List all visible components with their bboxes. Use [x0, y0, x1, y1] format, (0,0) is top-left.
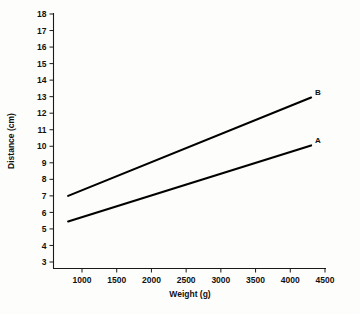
y-tick-label-7: 7 — [42, 191, 47, 201]
y-tick-label-4: 4 — [42, 241, 47, 251]
y-tick-label-16: 16 — [37, 42, 47, 52]
y-tick-label-3: 3 — [42, 257, 47, 267]
x-tick-label-3000: 3000 — [211, 275, 230, 285]
x-tick-label-1500: 1500 — [107, 275, 126, 285]
chart-series-lines — [68, 97, 311, 221]
x-axis-title: Weight (g) — [169, 289, 211, 299]
y-tick-label-9: 9 — [42, 158, 47, 168]
y-axis-ticks — [50, 14, 54, 262]
x-tick-label-4000: 4000 — [281, 275, 300, 285]
y-tick-label-6: 6 — [42, 208, 47, 218]
y-tick-label-5: 5 — [42, 224, 47, 234]
y-tick-label-18: 18 — [37, 9, 47, 19]
y-tick-label-14: 14 — [37, 75, 47, 85]
chart-figure: 3456789101112131415161718 10001500200025… — [0, 0, 360, 314]
x-tick-label-2500: 2500 — [177, 275, 196, 285]
chart-series-labels: BA — [315, 88, 321, 145]
y-tick-label-13: 13 — [37, 92, 47, 102]
y-tick-label-10: 10 — [37, 141, 47, 151]
y-tick-label-15: 15 — [37, 59, 47, 69]
x-tick-label-2000: 2000 — [142, 275, 161, 285]
x-axis-tick-labels: 10001500200025003000350040004500 — [73, 275, 335, 285]
series-line-B — [68, 97, 311, 195]
series-label-B: B — [315, 88, 321, 97]
y-tick-label-11: 11 — [38, 125, 47, 135]
x-tick-label-1000: 1000 — [73, 275, 92, 285]
chart-axes — [53, 13, 326, 269]
series-line-A — [68, 145, 311, 221]
y-tick-label-17: 17 — [37, 26, 47, 36]
x-tick-label-3500: 3500 — [246, 275, 265, 285]
y-tick-label-12: 12 — [37, 108, 47, 118]
y-axis-title: Distance (cm) — [6, 113, 16, 169]
y-tick-label-8: 8 — [42, 174, 47, 184]
series-label-A: A — [315, 136, 321, 145]
x-tick-label-4500: 4500 — [316, 275, 335, 285]
y-axis-tick-labels: 3456789101112131415161718 — [37, 9, 47, 267]
line-chart-plot: 3456789101112131415161718 10001500200025… — [0, 0, 360, 314]
x-axis-ticks — [82, 269, 325, 273]
